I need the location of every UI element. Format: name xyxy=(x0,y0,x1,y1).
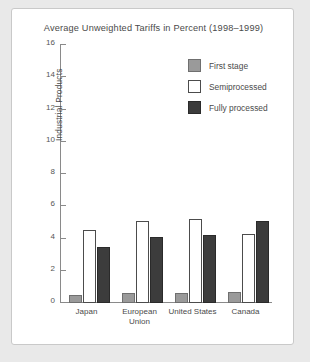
bar xyxy=(175,293,188,303)
y-tick-label: 12 xyxy=(46,103,55,112)
bar xyxy=(150,237,163,303)
bar-group xyxy=(69,45,110,303)
bar-group xyxy=(175,45,216,303)
bar xyxy=(242,234,255,303)
bar xyxy=(83,230,96,303)
bar xyxy=(136,221,149,303)
x-tick-label: Canada xyxy=(219,307,272,317)
chart-title: Average Unweighted Tariffs in Percent (1… xyxy=(12,23,295,33)
plot-area: Industrial Products 0246810121416 JapanE… xyxy=(60,45,272,303)
y-tick-label: 4 xyxy=(51,232,55,241)
y-tick-label: 2 xyxy=(51,264,55,273)
y-tick: 10 xyxy=(60,141,66,142)
bar-group xyxy=(122,45,163,303)
bar xyxy=(189,219,202,303)
x-tick-label: United States xyxy=(166,307,219,317)
bar xyxy=(228,292,241,303)
x-tick-label: Japan xyxy=(60,307,113,317)
y-tick: 12 xyxy=(60,109,66,110)
y-tick: 14 xyxy=(60,76,66,77)
y-tick-label: 14 xyxy=(46,70,55,79)
bar xyxy=(256,221,269,303)
y-tick: 4 xyxy=(60,238,66,239)
bar xyxy=(69,295,82,303)
y-tick: 6 xyxy=(60,205,66,206)
bar-group xyxy=(228,45,269,303)
x-tick-label: European Union xyxy=(113,307,166,327)
y-tick-label: 6 xyxy=(51,199,55,208)
y-tick: 2 xyxy=(60,270,66,271)
y-axis-title: Industrial Products xyxy=(54,68,64,141)
bar xyxy=(122,293,135,303)
chart-panel: Average Unweighted Tariffs in Percent (1… xyxy=(11,8,294,345)
y-tick: 8 xyxy=(60,173,66,174)
y-tick-label: 8 xyxy=(51,167,55,176)
y-tick: 0 xyxy=(60,302,66,303)
y-tick-label: 10 xyxy=(46,135,55,144)
y-tick-label: 16 xyxy=(46,38,55,47)
bar xyxy=(203,235,216,303)
bar xyxy=(97,247,110,303)
y-tick: 16 xyxy=(60,44,66,45)
y-tick-label: 0 xyxy=(51,296,55,305)
